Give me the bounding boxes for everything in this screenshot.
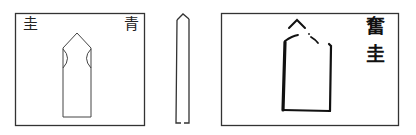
figure-canvas xyxy=(0,0,416,135)
label-qing: 青 xyxy=(124,17,139,32)
left-gui-tablet xyxy=(63,33,91,117)
label-fen: 奮 xyxy=(366,17,385,36)
label-gui-right: 圭 xyxy=(366,45,385,64)
label-gui: 圭 xyxy=(23,17,38,32)
right-gui-tablet xyxy=(283,20,331,111)
middle-gui-side-view xyxy=(176,14,189,123)
